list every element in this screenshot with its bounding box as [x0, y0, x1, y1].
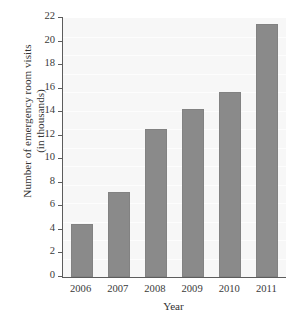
plot-band	[63, 74, 286, 75]
plot-band	[63, 55, 286, 56]
y-axis-tick-label: 8	[50, 175, 55, 186]
plot-band	[63, 222, 286, 223]
y-axis-tick-label: 0	[50, 269, 55, 280]
bar	[219, 92, 241, 277]
plot-band	[63, 37, 286, 38]
y-axis-tick: 10	[58, 158, 63, 159]
plot-area: 0246810121416182022	[62, 18, 286, 278]
y-axis-title-line-1: Number of emergency room visits	[21, 44, 34, 197]
y-axis-tick: 6	[58, 205, 63, 206]
bar	[145, 129, 167, 277]
y-axis-tick: 14	[58, 111, 63, 112]
plot-band	[63, 111, 286, 112]
y-axis-tick: 8	[58, 182, 63, 183]
bar-chart-figure: Number of emergency room visits (in thou…	[0, 0, 302, 324]
y-axis-tick: 12	[58, 135, 63, 136]
plot-band	[63, 129, 286, 130]
y-axis-tick-label: 6	[50, 198, 55, 209]
plot-band	[63, 259, 286, 260]
y-axis-tick: 2	[58, 252, 63, 253]
y-axis-tick-label: 22	[44, 10, 55, 21]
y-axis-tick-label: 18	[44, 57, 55, 68]
plot-band	[63, 92, 286, 93]
y-axis-tick-label: 12	[44, 128, 55, 139]
plot-band	[63, 148, 286, 149]
plot-band	[63, 166, 286, 167]
y-axis-tick: 18	[58, 64, 63, 65]
bar	[182, 109, 204, 277]
bar	[71, 224, 93, 277]
plot-band	[63, 185, 286, 186]
y-axis-tick-label: 10	[44, 151, 55, 162]
x-axis-title: Year	[62, 300, 285, 312]
y-axis-tick-label: 20	[44, 34, 55, 45]
y-axis-tick-label: 4	[50, 222, 55, 233]
x-axis-tick-label: 2011	[244, 283, 288, 294]
plot-band	[63, 203, 286, 204]
plot-band	[63, 240, 286, 241]
y-axis-tick-label: 2	[50, 245, 55, 256]
y-axis-tick: 22	[58, 17, 63, 18]
y-axis-tick: 0	[58, 276, 63, 277]
y-axis-tick-label: 16	[44, 81, 55, 92]
bar	[108, 192, 130, 277]
bar	[256, 24, 278, 277]
y-axis-tick: 4	[58, 229, 63, 230]
y-axis-title-line-2: (in thousands)	[34, 89, 47, 153]
y-axis-tick-label: 14	[44, 104, 55, 115]
y-axis-tick: 20	[58, 41, 63, 42]
y-axis-tick: 16	[58, 88, 63, 89]
